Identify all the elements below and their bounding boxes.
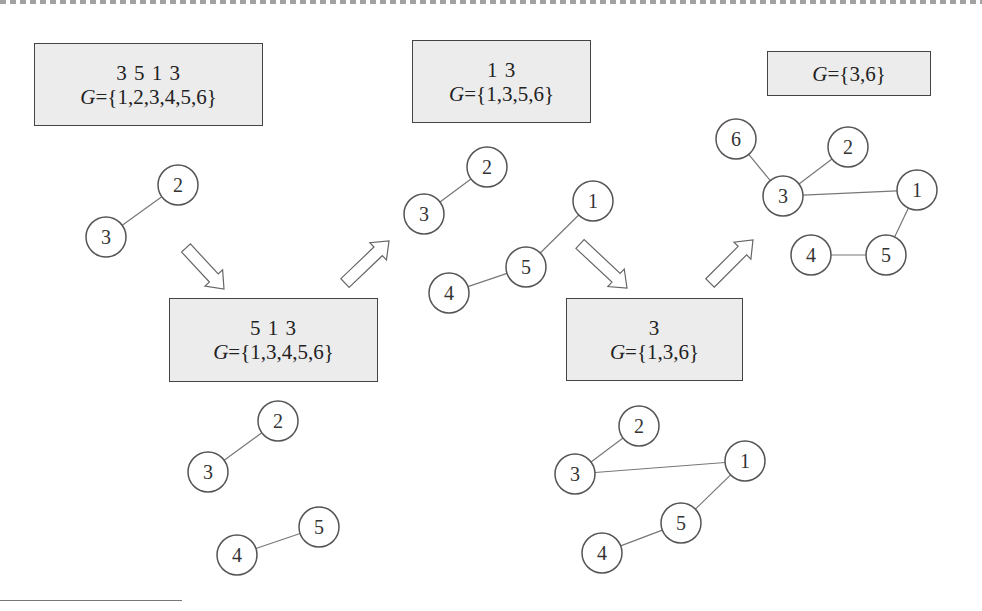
graph-node-5: 5 xyxy=(506,247,546,287)
node-label: 2 xyxy=(634,415,644,437)
graph-node-3: 3 xyxy=(86,217,126,257)
graph-node-2: 2 xyxy=(619,406,659,446)
node-label: 5 xyxy=(521,256,531,278)
node-label: 2 xyxy=(173,174,183,196)
node-label: 1 xyxy=(740,450,750,472)
node-label: 2 xyxy=(482,156,492,178)
node-label: 5 xyxy=(676,512,686,534)
arrow-down-2-icon xyxy=(576,240,627,288)
node-label: 4 xyxy=(597,542,607,564)
node-label: 3 xyxy=(203,461,213,483)
node-label: 5 xyxy=(881,244,891,266)
node-label: 4 xyxy=(232,544,242,566)
arrow-up-2-icon xyxy=(706,240,753,287)
graph-edge xyxy=(122,197,162,226)
graph-edge xyxy=(621,530,663,546)
graph1: 23 xyxy=(86,165,198,257)
graph-node-4: 4 xyxy=(429,273,469,313)
graph-edge xyxy=(799,159,832,184)
graph-edge xyxy=(695,475,730,509)
node-label: 3 xyxy=(570,463,580,485)
graph-node-2: 2 xyxy=(828,127,868,167)
graph-node-1: 1 xyxy=(573,181,613,221)
arrow-up-1-icon xyxy=(341,241,389,287)
graph-node-2: 2 xyxy=(158,165,198,205)
footnote-divider xyxy=(0,600,182,601)
graph-node-5: 5 xyxy=(299,507,339,547)
graph3: 23154 xyxy=(404,147,613,313)
arrow-down-1-icon xyxy=(182,244,224,289)
node-label: 6 xyxy=(731,128,741,150)
node-label: 3 xyxy=(778,185,788,207)
graph-edge xyxy=(803,191,897,195)
graph-node-3: 3 xyxy=(188,452,228,492)
graph-edge xyxy=(468,273,507,286)
node-label: 5 xyxy=(314,516,324,538)
graph-node-1: 1 xyxy=(725,441,765,481)
graph-edge xyxy=(256,533,300,548)
graph-node-3: 3 xyxy=(404,194,444,234)
graph-node-6: 6 xyxy=(716,119,756,159)
graph2: 2345 xyxy=(188,401,339,575)
node-label: 3 xyxy=(101,226,111,248)
graph-node-2: 2 xyxy=(258,401,298,441)
graph-node-3: 3 xyxy=(555,454,595,494)
graph-node-4: 4 xyxy=(791,235,831,275)
graph4: 23154 xyxy=(555,406,765,573)
graph-node-5: 5 xyxy=(866,235,906,275)
graph-node-5: 5 xyxy=(661,503,701,543)
node-label: 4 xyxy=(806,244,816,266)
graph-edge xyxy=(440,179,471,202)
graph-node-1: 1 xyxy=(897,170,937,210)
graph-edge xyxy=(591,438,623,462)
graph-node-4: 4 xyxy=(217,535,257,575)
graph-node-3: 3 xyxy=(763,176,803,216)
graph-node-4: 4 xyxy=(582,533,622,573)
graph-edge xyxy=(895,208,909,237)
graph-edge xyxy=(224,433,262,460)
node-label: 1 xyxy=(912,179,922,201)
node-label: 4 xyxy=(444,282,454,304)
node-label: 1 xyxy=(588,190,598,212)
graph-edge xyxy=(540,215,579,253)
graph-edge xyxy=(595,463,725,473)
graph-canvas: 2323452315423154623145 xyxy=(0,0,982,611)
node-label: 2 xyxy=(273,410,283,432)
node-label: 3 xyxy=(419,203,429,225)
graph-edge xyxy=(749,154,771,180)
graph-node-2: 2 xyxy=(467,147,507,187)
node-label: 2 xyxy=(843,136,853,158)
